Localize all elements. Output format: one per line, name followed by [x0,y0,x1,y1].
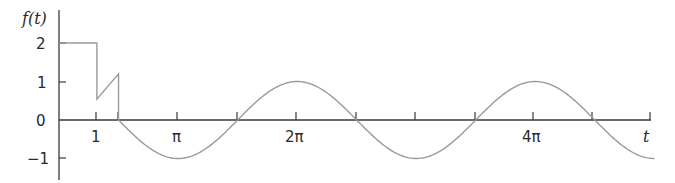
y-axis-title: f(t) [21,9,47,28]
x-tick-label-1: 1 [91,128,101,146]
function-curve [59,43,654,159]
x-tick-label-2pi: 2π [285,128,304,146]
x-axis-title: t [643,127,650,146]
x-tick-label-4pi: 4π [522,128,541,146]
y-tick-label-2: 2 [36,35,46,53]
x-ticks [96,112,650,120]
y-tick-label-0: 0 [36,112,46,130]
x-tick-label-pi: π [172,128,181,146]
y-tick-label-1: 1 [37,74,47,92]
function-plot: f(t) 2 1 0 −1 1 π 2π 4π t [0,0,675,183]
y-tick-label-m1: −1 [27,150,49,168]
